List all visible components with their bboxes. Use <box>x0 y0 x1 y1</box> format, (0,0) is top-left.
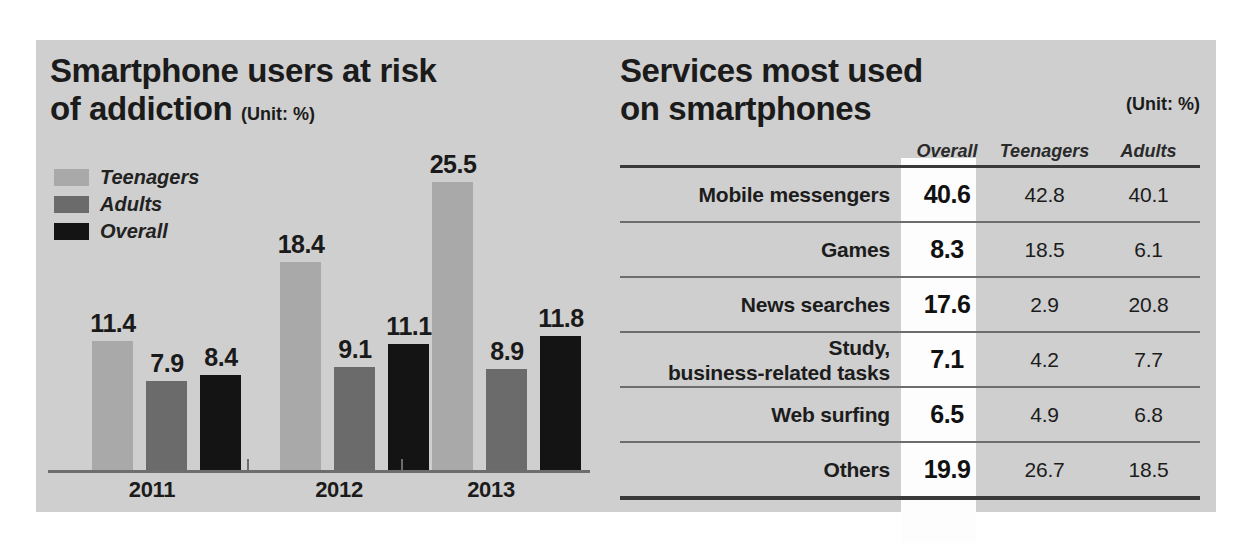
bar-2012-adults <box>334 367 375 470</box>
right-unit-label: (Unit: %) <box>1126 94 1200 115</box>
year-label-2011: 2011 <box>107 477 197 503</box>
table-row: Others 19.9 26.7 18.5 <box>620 442 1200 498</box>
table-row: Games 8.3 18.5 6.1 <box>620 222 1200 277</box>
right-title-line2: on smartphones <box>620 90 871 127</box>
bar-2013-teenagers <box>432 182 473 470</box>
row-label-line2: business-related tasks <box>668 361 890 384</box>
bar-value-2013-adults: 8.9 <box>477 337 537 366</box>
left-panel-title: Smartphone users at risk of addiction (U… <box>50 52 437 133</box>
bar-group-2011: 11.4 7.9 8.4 <box>92 140 252 470</box>
axis-tick-1 <box>247 459 249 473</box>
bar-2011-overall <box>200 375 241 470</box>
col-header-teenagers: Teenagers <box>992 132 1097 167</box>
cell-teenagers-study-business-tasks: 4.2 <box>992 332 1097 387</box>
table-row: Mobile messengers 40.6 42.8 40.1 <box>620 167 1200 223</box>
right-title-line1: Services most used <box>620 52 923 89</box>
bar-value-2012-adults: 9.1 <box>325 335 385 364</box>
bar-value-2011-teenagers: 11.4 <box>83 309 143 338</box>
bar-2013-adults <box>486 369 527 470</box>
bar-2011-teenagers <box>92 341 133 470</box>
bar-value-2013-teenagers: 25.5 <box>423 150 483 179</box>
chart-axis-line <box>48 470 590 473</box>
table-row: News searches 17.6 2.9 20.8 <box>620 277 1200 332</box>
axis-tick-2 <box>401 459 403 473</box>
table-row: Study,business-related tasks 7.1 4.2 7.7 <box>620 332 1200 387</box>
cell-overall-mobile-messengers: 40.6 <box>902 167 992 223</box>
left-unit-label: (Unit: %) <box>241 104 315 124</box>
bar-2011-adults <box>146 381 187 470</box>
cell-overall-news-searches: 17.6 <box>902 277 992 332</box>
row-label-study-business-tasks: Study,business-related tasks <box>620 332 902 387</box>
services-table: Overall Teenagers Adults Mobile messenge… <box>620 132 1200 500</box>
right-table-panel: Services most used on smartphones (Unit:… <box>604 40 1216 512</box>
right-panel-title: Services most used on smartphones <box>620 52 923 128</box>
bar-group-2012: 18.4 9.1 11.1 <box>280 140 440 470</box>
year-label-2012: 2012 <box>294 477 384 503</box>
left-title-line2: of addiction <box>50 90 232 127</box>
cell-teenagers-games: 18.5 <box>992 222 1097 277</box>
col-header-blank <box>620 132 902 167</box>
bar-2012-teenagers <box>280 262 321 470</box>
bar-group-2013: 25.5 8.9 11.8 <box>432 140 592 470</box>
cell-teenagers-others: 26.7 <box>992 442 1097 498</box>
cell-overall-study-business-tasks: 7.1 <box>902 332 992 387</box>
bar-value-2013-overall: 11.8 <box>531 304 591 333</box>
col-header-overall: Overall <box>902 132 992 167</box>
table-row: Web surfing 6.5 4.9 6.8 <box>620 387 1200 442</box>
col-header-adults: Adults <box>1097 132 1200 167</box>
bar-chart: 11.4 7.9 8.4 18.4 9.1 11.1 25.5 8.9 <box>50 140 596 470</box>
cell-teenagers-mobile-messengers: 42.8 <box>992 167 1097 223</box>
row-label-games: Games <box>620 222 902 277</box>
bar-value-2012-teenagers: 18.4 <box>271 230 331 259</box>
cell-adults-others: 18.5 <box>1097 442 1200 498</box>
cell-adults-mobile-messengers: 40.1 <box>1097 167 1200 223</box>
year-label-2013: 2013 <box>446 477 536 503</box>
cell-overall-others: 19.9 <box>902 442 992 498</box>
row-label-mobile-messengers: Mobile messengers <box>620 167 902 223</box>
cell-teenagers-web-surfing: 4.9 <box>992 387 1097 442</box>
left-title-line1: Smartphone users at risk <box>50 52 437 89</box>
bar-value-2012-overall: 11.1 <box>379 312 439 341</box>
row-label-others: Others <box>620 442 902 498</box>
cell-adults-games: 6.1 <box>1097 222 1200 277</box>
cell-adults-study-business-tasks: 7.7 <box>1097 332 1200 387</box>
bar-2012-overall <box>388 344 429 470</box>
infographic-root: Smartphone users at risk of addiction (U… <box>0 0 1247 552</box>
row-label-line1: Study, <box>829 336 890 359</box>
cell-adults-web-surfing: 6.8 <box>1097 387 1200 442</box>
bar-value-2011-adults: 7.9 <box>137 349 197 378</box>
table-header-row: Overall Teenagers Adults <box>620 132 1200 167</box>
bar-2013-overall <box>540 336 581 470</box>
cell-overall-web-surfing: 6.5 <box>902 387 992 442</box>
row-label-web-surfing: Web surfing <box>620 387 902 442</box>
cell-adults-news-searches: 20.8 <box>1097 277 1200 332</box>
row-label-news-searches: News searches <box>620 277 902 332</box>
left-chart-panel: Smartphone users at risk of addiction (U… <box>36 40 604 512</box>
bar-value-2011-overall: 8.4 <box>191 343 251 372</box>
cell-overall-games: 8.3 <box>902 222 992 277</box>
cell-teenagers-news-searches: 2.9 <box>992 277 1097 332</box>
